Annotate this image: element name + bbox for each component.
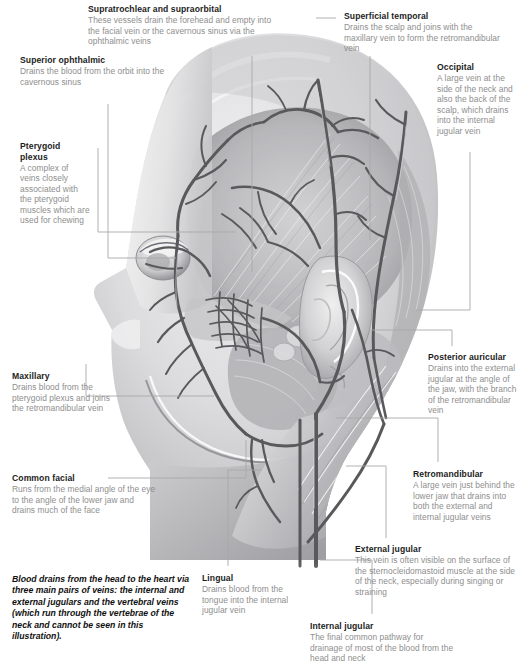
callout-internal-jugular: Internal jugular The final common pathwa…: [310, 621, 455, 664]
callout-common-facial: Common facial Runs from the medial angle…: [12, 473, 157, 516]
callout-lingual: Lingual Drains blood from the tongue int…: [202, 573, 308, 616]
callout-title: Pterygoid plexus: [20, 141, 90, 162]
callout-title: Maxillary: [12, 371, 122, 382]
callout-superficial-temporal: Superficial temporal Drains the scalp an…: [344, 11, 508, 54]
callout-title: Superior ophthalmic: [20, 55, 170, 66]
callout-title: Supratrochlear and supraorbital: [88, 4, 284, 15]
callout-external-jugular: External jugular This vein is often visi…: [355, 544, 522, 597]
callout-title: Common facial: [12, 473, 157, 484]
callout-body: Drains blood from the tongue into the in…: [202, 584, 308, 616]
callout-pterygoid-plexus: Pterygoid plexus A complex of veins clos…: [20, 141, 90, 226]
callout-body: Drains blood from the pterygoid plexus a…: [12, 382, 122, 414]
callout-body: Runs from the medial angle of the eye to…: [12, 484, 157, 516]
callout-maxillary: Maxillary Drains blood from the pterygoi…: [12, 371, 122, 414]
callout-title: Lingual: [202, 573, 308, 584]
callout-body: Drains into the external jugular at the …: [428, 363, 520, 416]
callout-superior-ophthalmic: Superior ophthalmic Drains the blood fro…: [20, 55, 170, 87]
callout-title: Superficial temporal: [344, 11, 508, 22]
callout-body: A large vein at the side of the neck and…: [437, 73, 517, 137]
callout-posterior-auricular: Posterior auricular Drains into the exte…: [428, 352, 520, 416]
callout-body: This vein is often visible on the surfac…: [355, 555, 522, 597]
callout-title: Internal jugular: [310, 621, 455, 632]
callout-body: Drains the blood from the orbit into the…: [20, 66, 170, 87]
callout-title: External jugular: [355, 544, 522, 555]
callout-retromandibular: Retromandibular A large vein just behind…: [413, 469, 522, 522]
callout-body: The final common pathway for drainage of…: [310, 632, 455, 664]
callout-title: Retromandibular: [413, 469, 522, 480]
callout-body: A complex of veins closely associated wi…: [20, 163, 90, 227]
figure-caption: Blood drains from the head to the heart …: [12, 574, 194, 642]
callout-body: Drains the scalp and joins with the maxi…: [344, 22, 508, 54]
callout-title: Posterior auricular: [428, 352, 520, 363]
callout-supratrochlear-supraorbital: Supratrochlear and supraorbital These ve…: [88, 4, 284, 47]
callout-body: These vessels drain the forehead and emp…: [88, 15, 284, 47]
callout-body: A large vein just behind the lower jaw t…: [413, 480, 522, 522]
callout-occipital: Occipital A large vein at the side of th…: [437, 62, 517, 137]
figure-canvas: Supratrochlear and supraorbital These ve…: [0, 0, 522, 664]
callout-title: Occipital: [437, 62, 517, 73]
